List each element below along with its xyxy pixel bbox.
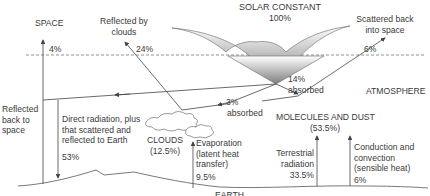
solar-constant-title: SOLAR CONSTANT: [220, 2, 340, 13]
clouds-shape: [146, 112, 214, 138]
evaporation-pct: 9.5%: [196, 172, 216, 183]
molecules-label: MOLECULES AND DUST: [276, 112, 375, 123]
absorbed14-pct: 14%: [288, 74, 305, 85]
direct-radiation-label: Direct radiation, plus that scattered an…: [62, 114, 140, 146]
reflected-clouds-arrow: [125, 42, 182, 110]
conduction-pct: 6%: [354, 175, 366, 186]
terrestrial-pct: 33.5%: [262, 170, 314, 181]
reflected-clouds-pct: 24%: [136, 44, 153, 55]
clouds-label: CLOUDS: [140, 135, 190, 146]
reflected-back-label: Reflected back to space: [2, 104, 38, 136]
atmosphere-label: ATMOSPHERE: [366, 86, 426, 97]
conduction-label: Conduction and convection (sensible heat…: [354, 142, 414, 174]
solar-constant-value: 100%: [220, 13, 340, 24]
absorbed14-label: absorbed: [288, 85, 324, 96]
evaporation-label: Evaporation (latent heat transfer): [196, 138, 242, 170]
solar-arrow-core: [228, 56, 324, 84]
scattered-label: Scattered back into space: [345, 14, 425, 35]
absorbed3-pct: 3%: [226, 97, 238, 108]
direct-radiation-pct: 53%: [62, 152, 79, 163]
energy-balance-diagram: SOLAR CONSTANT 100% SPACE 4% Reflected b…: [0, 0, 430, 196]
earth-label: EARTH: [215, 190, 244, 196]
reflected-clouds-label: Reflected by clouds: [88, 16, 160, 37]
molecules-pct: (53.5%): [300, 123, 350, 134]
absorbed3-label: absorbed: [227, 108, 263, 119]
terrestrial-label: Terrestrial radiation: [262, 148, 314, 169]
clouds-pct: (12.5%): [140, 146, 190, 157]
space-pct: 4%: [49, 44, 61, 55]
space-label: SPACE: [35, 18, 64, 29]
scattered-pct: 6%: [364, 44, 376, 55]
